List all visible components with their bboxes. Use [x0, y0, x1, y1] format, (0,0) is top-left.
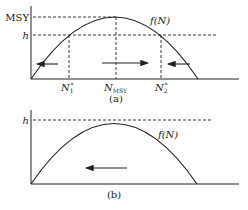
curve-label: f(N): [149, 15, 170, 26]
panel-b: h f(N) (b): [23, 110, 239, 200]
h-label: h: [23, 30, 29, 41]
growth-curve: [31, 17, 198, 79]
caption-b: (b): [107, 189, 121, 200]
caption-a: (a): [109, 93, 123, 104]
h-label: h: [23, 115, 29, 126]
harvest-diagram: MSY h f(N) N1* NMSY N2* (a) h f(N) (b): [0, 0, 248, 210]
n2-label: N2*: [154, 81, 168, 94]
n1-label: N1*: [60, 81, 74, 94]
panel-a: MSY h f(N) N1* NMSY N2* (a): [5, 6, 239, 104]
msy-label: MSY: [5, 12, 29, 23]
curve-label: f(N): [157, 129, 178, 140]
